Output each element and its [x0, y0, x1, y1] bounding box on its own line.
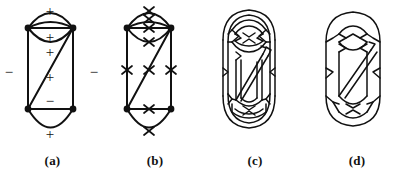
link-diagonal-strand-2 — [345, 52, 377, 98]
panel-a: + + + − − + − + (a) — [0, 0, 105, 181]
band-lens-outer-lower — [232, 42, 266, 52]
vertex-bottom-right — [70, 106, 77, 113]
band-bottom-connector-left — [232, 99, 236, 100]
band-lens-inner-lower — [235, 41, 263, 46]
link-left-side-chevron — [326, 68, 333, 78]
edge-bottom-arc — [28, 109, 73, 128]
caption-a: (a) — [0, 153, 105, 169]
band-lens-chevron-upper — [243, 33, 255, 37]
band-bottom-lens-lower — [232, 112, 266, 118]
link-connector-upper-right — [367, 34, 380, 42]
link-outer-boundary — [326, 12, 380, 126]
link-upper-right-zigzag — [360, 34, 367, 42]
sign-left-vertical: − — [5, 64, 13, 80]
vertex-bottom-left — [124, 106, 131, 113]
link-lower-arc-lower — [339, 112, 367, 118]
band-diagonal-right-rail — [241, 56, 268, 101]
band-inner-top — [228, 15, 270, 42]
panel-b: (b) — [105, 0, 205, 181]
sign-diagonal: + — [46, 69, 54, 85]
link-diagonal-strand — [339, 50, 371, 96]
caption-b: (b) — [105, 153, 205, 169]
band-bottom-lens-upper — [236, 100, 262, 106]
panel-c: (c) — [205, 0, 305, 181]
link-lower-arc-upper — [339, 96, 367, 104]
sign-top-arc-outer: + — [46, 3, 54, 19]
link-connector-upper-left — [326, 34, 339, 42]
band-bottom-connector-right — [262, 99, 266, 100]
sign-right-vertical: − — [90, 64, 98, 80]
panel-d-graphic — [305, 0, 409, 150]
link-upper-arc — [339, 26, 367, 34]
panel-c-graphic — [205, 0, 305, 150]
panel-a-graphic: + + + − − + − + — [0, 0, 105, 150]
band-lens-outer-upper — [232, 20, 266, 30]
band-lens-inner-upper — [235, 26, 263, 34]
vertex-top-left — [25, 25, 32, 32]
sign-bottom-arc: + — [46, 126, 54, 142]
sign-lens-upper-arc: + — [46, 29, 54, 45]
sign-bottom-horizontal: − — [46, 93, 54, 109]
vertex-top-right — [168, 25, 175, 32]
vertex-bottom-left — [25, 106, 32, 113]
caption-d: (d) — [305, 153, 409, 169]
band-bottom-lens-upper-inner — [241, 98, 257, 102]
link-right-side-chevron — [373, 68, 380, 78]
band-mid-left-zigzag — [236, 52, 241, 60]
link-connector-lower-right — [367, 96, 380, 104]
link-upper-left-zigzag — [339, 34, 346, 42]
link-diagonal-turn — [369, 42, 375, 50]
link-lower-chevron-lower — [346, 110, 360, 114]
caption-c: (c) — [205, 153, 305, 169]
edge-diagonal — [127, 28, 171, 109]
vertex-top-right — [70, 25, 77, 32]
panel-b-graphic — [105, 0, 205, 150]
sign-lens-chord: + — [46, 44, 54, 60]
link-connector-lower-left — [326, 96, 339, 104]
band-diagonal-left-rail — [236, 54, 263, 100]
link-upper-chevron — [346, 34, 360, 38]
sign-group: + + + − − + − + — [5, 3, 98, 142]
panel-d: (d) — [305, 0, 409, 181]
link-mid-left-hairpin — [339, 44, 346, 52]
vertex-top-left — [124, 25, 131, 32]
figure-container: + + + − − + − + (a) — [0, 0, 409, 181]
edge-bottom-arc — [127, 109, 171, 128]
band-lens-chevron-lower — [243, 39, 255, 43]
vertex-bottom-right — [168, 106, 175, 113]
link-mid-right-hairpin — [360, 44, 367, 52]
